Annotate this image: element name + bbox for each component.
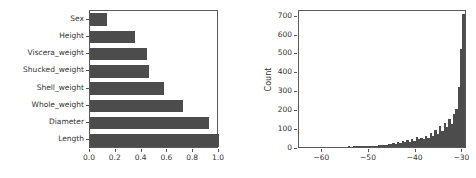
bar-whole_weight (90, 100, 183, 112)
matplotlib-figure: SexHeightViscera_weightShucked_weightShe… (0, 0, 476, 178)
histogram-y-tick (294, 72, 297, 73)
histogram-x-tick-label: −60 (310, 154, 332, 162)
bar-x-tick-label: 1.0 (209, 154, 227, 162)
bar-category-label: Sex (70, 15, 84, 23)
bar-y-tick (86, 19, 89, 20)
bar-x-tick (115, 149, 116, 152)
histogram-y-tick (294, 53, 297, 54)
histogram-y-tick-label: 500 (268, 49, 292, 57)
histogram-x-tick-label: −40 (404, 154, 426, 162)
bar-y-tick (86, 88, 89, 89)
bar-sex (90, 13, 107, 25)
feature-importance-bar-chart (89, 10, 218, 148)
bar-x-tick-label: 0.6 (157, 154, 175, 162)
histogram-x-tick (461, 149, 462, 152)
histogram-x-tick (321, 149, 322, 152)
histogram-y-tick (294, 148, 297, 149)
histogram-x-tick-label: −30 (450, 154, 472, 162)
histogram-bin (462, 14, 464, 147)
histogram-y-tick (294, 110, 297, 111)
histogram-y-tick-label: 0 (268, 144, 292, 152)
bar-x-tick-label: 0.8 (183, 154, 201, 162)
histogram-y-tick-label: 600 (268, 31, 292, 39)
bar-x-tick (89, 149, 90, 152)
bar-category-label: Viscera_weight (28, 49, 84, 57)
histogram-x-tick (368, 149, 369, 152)
bar-height (90, 31, 135, 43)
histogram-y-tick-label: 200 (268, 106, 292, 114)
bar-y-tick (86, 70, 89, 71)
bar-x-tick-label: 0.4 (132, 154, 150, 162)
histogram-y-tick (294, 91, 297, 92)
bar-category-label: Length (58, 135, 84, 143)
bar-x-tick-label: 0.2 (106, 154, 124, 162)
histogram-y-axis-title: Count (264, 67, 273, 91)
bar-y-tick (86, 122, 89, 123)
histogram-x-tick-label: −50 (357, 154, 379, 162)
bar-category-label: Shell_weight (37, 84, 84, 92)
bar-diameter (90, 117, 209, 129)
bar-x-tick (166, 149, 167, 152)
histogram-y-tick-label: 700 (268, 12, 292, 20)
bar-shucked_weight (90, 65, 149, 77)
bar-y-tick (86, 36, 89, 37)
bar-category-label: Diameter (49, 118, 84, 126)
bar-category-label: Whole_weight (32, 101, 85, 109)
log-likelihood-histogram (298, 10, 466, 148)
histogram-y-tick-label: 100 (268, 125, 292, 133)
bar-viscera_weight (90, 48, 147, 60)
bar-x-tick (141, 149, 142, 152)
bar-y-tick (86, 53, 89, 54)
histogram-bin (348, 146, 350, 147)
bar-x-tick (192, 149, 193, 152)
bar-y-tick (86, 139, 89, 140)
bar-y-tick (86, 105, 89, 106)
bar-category-label: Shucked_weight (23, 66, 84, 74)
histogram-y-tick (294, 35, 297, 36)
histogram-x-tick (415, 149, 416, 152)
bar-x-tick (218, 149, 219, 152)
histogram-y-tick (294, 129, 297, 130)
bar-x-tick-label: 0.0 (80, 154, 98, 162)
bar-length (90, 134, 219, 146)
histogram-y-tick (294, 16, 297, 17)
bar-category-label: Height (59, 32, 84, 40)
bar-shell_weight (90, 82, 164, 94)
